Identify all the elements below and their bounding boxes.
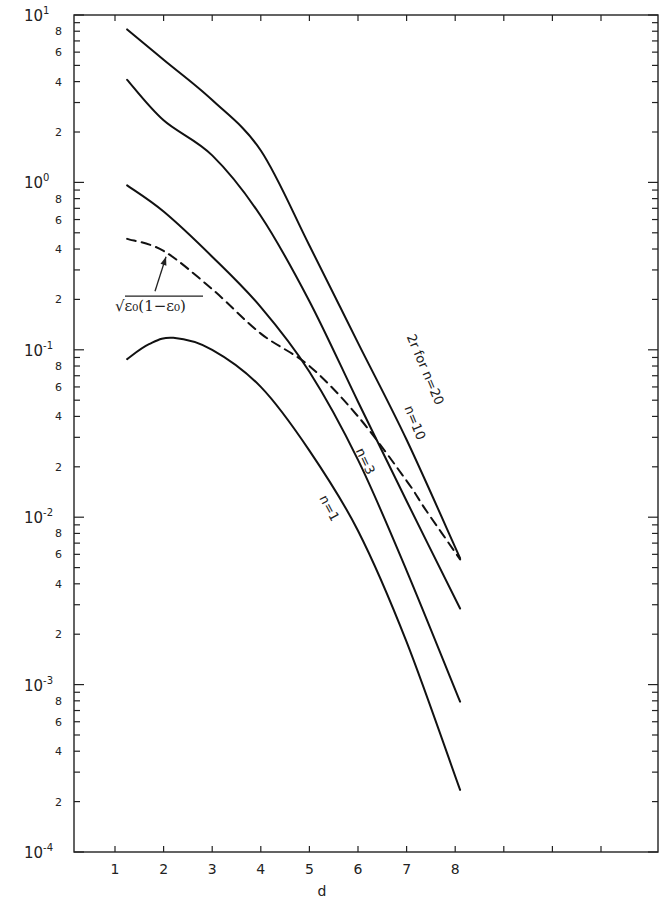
y-decade-label: 101	[24, 5, 49, 25]
y-minor-label: 4	[55, 578, 62, 591]
y-minor-label: 2	[55, 796, 62, 809]
curve-sqrt-eps	[127, 239, 460, 560]
plot-border	[74, 15, 658, 852]
y-decade-label: 10-2	[24, 507, 53, 527]
arrow-head-icon	[161, 257, 167, 266]
curve-2r-for-n-20	[127, 29, 460, 558]
x-tick-label: 2	[159, 861, 168, 877]
y-minor-label: 4	[55, 243, 62, 256]
y-minor-label: 8	[55, 25, 62, 38]
y-minor-label: 8	[55, 527, 62, 540]
x-tick-label: 8	[451, 861, 460, 877]
y-minor-label: 6	[55, 381, 62, 394]
y-minor-label: 8	[55, 360, 62, 373]
x-axis-title: d	[318, 883, 327, 899]
y-minor-label: 2	[55, 126, 62, 139]
y-decade-label: 100	[24, 172, 49, 192]
y-minor-label: 4	[55, 410, 62, 423]
y-minor-label: 4	[55, 76, 62, 89]
x-tick-label: 3	[208, 861, 217, 877]
y-decade-label: 10-4	[24, 842, 53, 862]
x-tick-label: 1	[111, 861, 120, 877]
y-minor-label: 4	[55, 745, 62, 758]
curve-label: n=3	[353, 446, 378, 477]
x-tick-label: 4	[256, 861, 265, 877]
y-minor-label: 6	[55, 46, 62, 59]
plot-frame	[74, 15, 658, 852]
y-decade-label: 10-3	[24, 675, 53, 695]
x-axis-ticks: 12345678	[111, 15, 601, 877]
y-axis-ticks: 1012468100246810-1246810-2246810-3246810…	[24, 5, 658, 862]
curve-n-3	[127, 185, 460, 701]
log-plot: 1012468100246810-1246810-2246810-3246810…	[0, 0, 671, 914]
formula-label: √ε₀(1−ε₀)	[115, 297, 186, 315]
curve-label: 2r for n=20	[404, 332, 447, 407]
y-minor-label: 8	[55, 695, 62, 708]
y-minor-label: 6	[55, 716, 62, 729]
y-minor-label: 2	[55, 461, 62, 474]
y-minor-label: 2	[55, 628, 62, 641]
x-tick-label: 7	[402, 861, 411, 877]
x-tick-label: 5	[305, 861, 314, 877]
y-minor-label: 8	[55, 193, 62, 206]
y-minor-label: 6	[55, 214, 62, 227]
y-minor-label: 2	[55, 293, 62, 306]
y-decade-label: 10-1	[24, 340, 53, 360]
y-minor-label: 6	[55, 548, 62, 561]
x-tick-label: 6	[354, 861, 363, 877]
